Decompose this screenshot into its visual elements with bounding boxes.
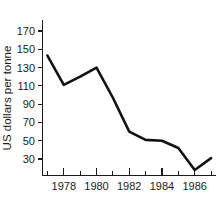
- y-tick-label: 170: [17, 25, 35, 37]
- y-axis: 30507090110130150170: [17, 20, 43, 176]
- x-tick-label: 1984: [150, 180, 174, 192]
- x-axis-major-ticks: [64, 168, 195, 176]
- y-tick-label: 30: [23, 153, 35, 165]
- x-tick-label: 1986: [182, 180, 206, 192]
- line-chart: 30507090110130150170 1978198019821984198…: [0, 0, 221, 208]
- x-tick-label: 1980: [84, 180, 108, 192]
- y-tick-label: 150: [17, 43, 35, 55]
- x-axis: 19781980198219841986: [43, 168, 217, 192]
- y-tick-label: 110: [17, 80, 35, 92]
- y-tick-label: 50: [23, 135, 35, 147]
- y-tick-label: 130: [17, 62, 35, 74]
- x-axis-tick-labels: 19781980198219841986: [52, 180, 207, 192]
- data-series-line: [47, 56, 211, 170]
- y-axis-title: US dollars per tonne: [1, 46, 13, 151]
- y-axis-ticks: [38, 31, 43, 159]
- y-axis-tick-labels: 30507090110130150170: [17, 25, 35, 165]
- y-tick-label: 70: [23, 116, 35, 128]
- x-tick-label: 1978: [52, 180, 76, 192]
- x-tick-label: 1982: [117, 180, 141, 192]
- y-tick-label: 90: [23, 98, 35, 110]
- chart-canvas: 30507090110130150170 1978198019821984198…: [0, 0, 221, 208]
